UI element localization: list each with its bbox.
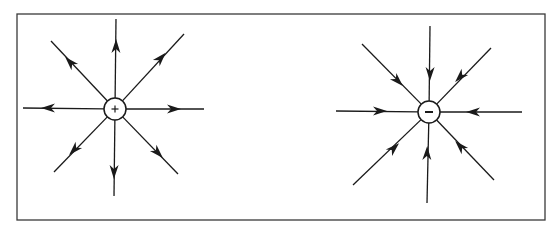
field-line — [437, 120, 494, 180]
field-line — [115, 19, 116, 98]
field-line — [362, 44, 421, 104]
negative-charge: − — [336, 26, 522, 203]
arrowhead-icon — [455, 69, 468, 82]
field-line — [23, 108, 104, 109]
arrowhead-icon — [422, 146, 431, 160]
arrowhead-icon — [69, 142, 82, 155]
arrowhead-icon — [455, 141, 468, 154]
field-line — [429, 26, 430, 101]
field-line — [353, 120, 421, 185]
diagram-frame — [17, 14, 545, 220]
field-line — [54, 117, 107, 172]
field-line — [427, 123, 429, 203]
field-line — [51, 41, 107, 101]
charges-group: +− — [23, 19, 522, 203]
field-lines-diagram: +− — [0, 0, 557, 234]
field-line — [122, 34, 184, 101]
positive-charge: + — [23, 19, 204, 196]
field-line — [114, 120, 115, 196]
arrowhead-icon — [153, 53, 166, 66]
arrowhead-icon — [386, 143, 399, 156]
field-line — [123, 117, 178, 174]
